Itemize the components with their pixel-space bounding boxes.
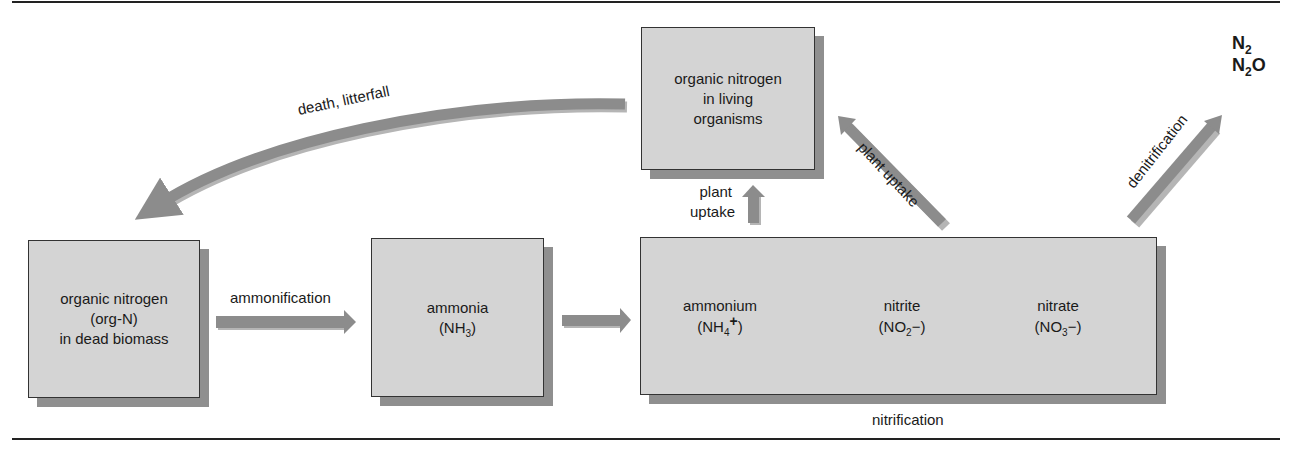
living-line1: organic nitrogen — [674, 69, 782, 89]
living-line3: organisms — [674, 109, 782, 129]
nitrification-label: nitrification — [872, 410, 944, 430]
ammonia-to-ammonium-arrow — [562, 308, 631, 333]
ammonia-formula: (NH3) — [427, 318, 489, 338]
ammonium-formula: (NH4+) — [660, 316, 780, 337]
dead-biomass-box: organic nitrogen (org-N) in dead biomass — [28, 240, 200, 398]
nitrite-formula: (NO2−) — [862, 316, 942, 337]
living-organisms-label: organic nitrogen in living organisms — [674, 69, 782, 129]
ammonium-label: ammonium (NH4+) — [660, 295, 780, 337]
living-organisms-box: organic nitrogen in living organisms — [641, 27, 815, 170]
nitrite-name: nitrite — [862, 295, 942, 316]
denitrification-products: N2 N2O — [1232, 32, 1266, 76]
ammonia-box: ammonia (NH3) — [371, 238, 544, 397]
death-litterfall-arrow — [158, 104, 627, 208]
n2-label: N2 — [1232, 32, 1266, 54]
plant-uptake-vertical-label: plant uptake — [690, 182, 732, 222]
n2o-label: N2O — [1232, 54, 1266, 76]
living-line2: in living — [674, 89, 782, 109]
ammonium-name: ammonium — [660, 295, 780, 316]
ammonia-name: ammonia — [427, 298, 489, 318]
ammonification-arrow — [216, 310, 356, 334]
nitrite-label: nitrite (NO2−) — [862, 295, 942, 337]
nitrate-formula: (NO3−) — [1018, 316, 1098, 337]
dead-biomass-line2: (org-N) — [59, 309, 168, 329]
dead-biomass-line1: organic nitrogen — [59, 289, 168, 309]
ammonification-label: ammonification — [230, 288, 331, 308]
plant-uptake-vertical-line1: plant — [690, 182, 732, 202]
dead-biomass-line3: in dead biomass — [59, 329, 168, 349]
nitrate-label: nitrate (NO3−) — [1018, 295, 1098, 337]
ammonia-label: ammonia (NH3) — [427, 298, 489, 338]
plant-uptake-vertical-line2: uptake — [690, 202, 732, 222]
nitrate-name: nitrate — [1018, 295, 1098, 316]
dead-biomass-label: organic nitrogen (org-N) in dead biomass — [59, 289, 168, 349]
plant-uptake-vertical-arrow — [742, 185, 765, 225]
